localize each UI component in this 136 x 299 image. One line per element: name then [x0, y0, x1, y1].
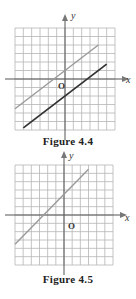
- figure-caption: Figure 4.5: [0, 273, 136, 285]
- x-axis-label: x: [125, 212, 129, 223]
- y-axis-arrow-icon: [61, 151, 67, 158]
- figure-4-4: y x O Figure 4.4: [0, 0, 136, 150]
- y-axis-arrow-icon: [62, 14, 68, 21]
- figure-caption: Figure 4.4: [0, 135, 136, 147]
- y-axis-label: y: [71, 10, 75, 21]
- y-axis-label: y: [69, 150, 73, 161]
- coordinate-grid: [0, 0, 136, 150]
- x-axis-label: x: [126, 74, 130, 85]
- origin-label: O: [68, 221, 75, 231]
- origin-label: O: [58, 81, 65, 91]
- figure-4-5: y x O Figure 4.5: [0, 150, 136, 299]
